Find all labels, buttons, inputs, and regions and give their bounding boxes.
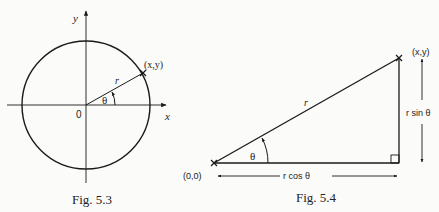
figure-caption: Fig. 5.3 <box>72 192 112 207</box>
diagram-canvas: y x 0 r θ (x,y) Fig. 5.3 (0,0) (x,y) r θ… <box>0 0 439 212</box>
hypotenuse-line <box>214 58 399 163</box>
opposite-label: r sin θ <box>406 108 431 118</box>
point-label: (x,y) <box>144 59 163 71</box>
point-label: (x,y) <box>412 47 430 57</box>
origin-label: (0,0) <box>183 171 202 181</box>
y-axis-label: y <box>72 12 78 24</box>
right-angle-marker <box>391 155 399 163</box>
angle-label: θ <box>250 150 255 162</box>
angle-arc <box>262 138 268 163</box>
x-axis-label: x <box>164 110 170 122</box>
figure-5-3: y x 0 r θ (x,y) Fig. 5.3 <box>7 11 170 207</box>
figure-5-4: (0,0) (x,y) r θ r sin θ r cos θ Fig. 5.4 <box>183 47 431 205</box>
hypotenuse-label: r <box>304 97 308 108</box>
adjacent-label: r cos θ <box>283 171 310 181</box>
origin-label: 0 <box>76 109 82 120</box>
angle-label: θ <box>102 94 107 106</box>
angle-arc <box>112 92 115 105</box>
radius-label: r <box>115 75 119 86</box>
figure-caption: Fig. 5.4 <box>296 190 337 205</box>
